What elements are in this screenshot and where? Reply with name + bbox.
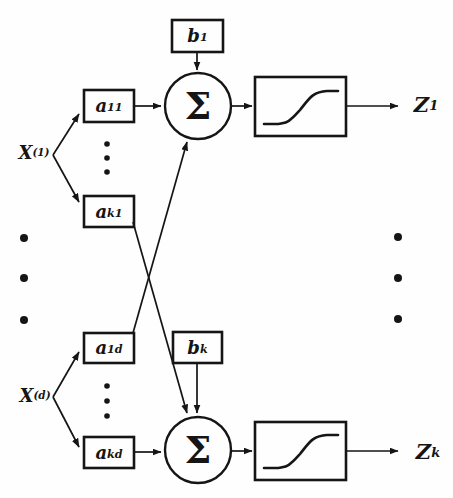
weight-box-ak1 [84,196,134,227]
bias-box-b1 [172,20,223,52]
edge-xd-akd [53,397,79,447]
vertical-ellipsis-icon-weights-bottom [104,383,110,419]
sum-node-2 [165,417,231,483]
sum-node-1 [165,73,231,139]
vertical-ellipsis-icon-left [20,234,28,324]
vertical-ellipsis-icon-weights-top [104,141,110,175]
weight-box-akd [84,437,134,468]
weight-box-a1d [84,333,134,363]
edge-ak1-sum2 [133,222,187,413]
sigmoid-curve-icon-1 [264,91,338,124]
edge-x1-a11 [53,114,79,155]
edge-a1d-sum1 [133,142,187,333]
edge-x1-ak1 [53,155,79,202]
vertical-ellipsis-icon-right [394,233,402,323]
bias-box-bk [173,332,222,363]
diagram-strokes [0,0,453,498]
activation-box-1 [255,77,346,136]
activation-box-2 [255,422,346,480]
sigmoid-curve-icon-2 [264,435,338,468]
network-diagram: X(1) X(d) a11 ak1 a1d akd b1 bk Σ Σ Z1 Z… [0,0,453,498]
weight-box-a11 [84,90,134,122]
edge-xd-a1d [53,352,79,397]
